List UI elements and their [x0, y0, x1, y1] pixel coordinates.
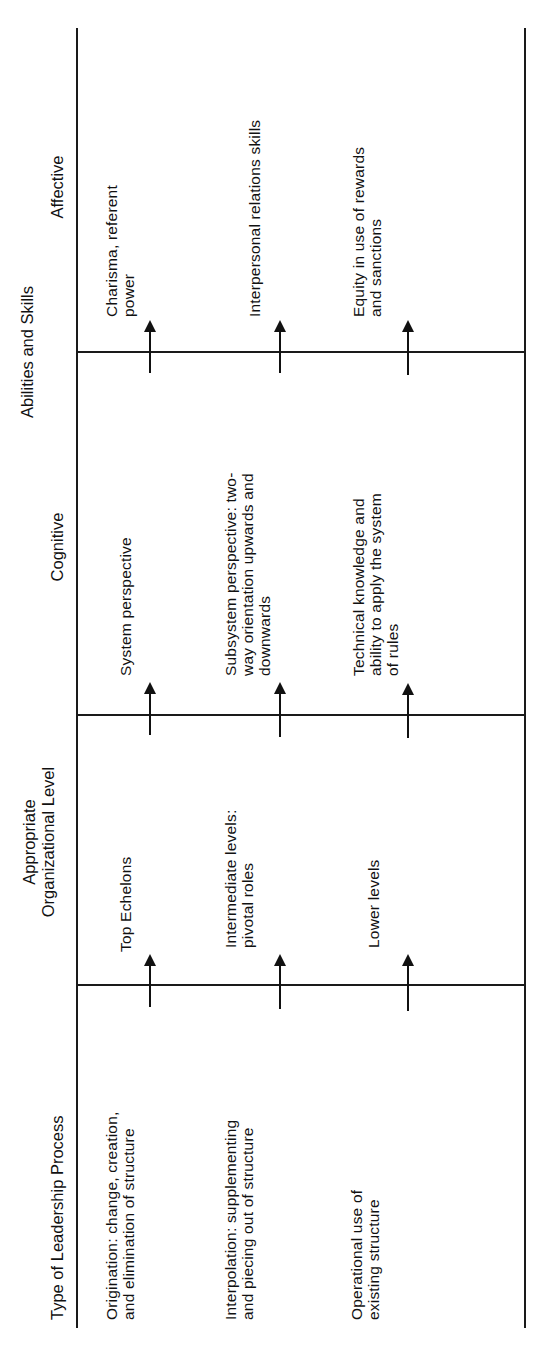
arrow-icon: [279, 685, 281, 737]
row2-affective: Interpersonal relations skills: [246, 120, 263, 317]
row2-level: Intermediate levels: pivotal roles: [222, 810, 256, 948]
bottom-rule: [524, 28, 526, 1328]
column-divider-1: [77, 984, 526, 986]
arrow-icon: [149, 957, 151, 1007]
column-divider-2: [77, 714, 526, 716]
header-leadership-process: Type of Leadership Process: [48, 1020, 67, 1328]
row3-affective: Equity in use of rewards and sanctions: [350, 147, 384, 317]
arrow-icon: [407, 957, 409, 1011]
rotated-table: Type of Leadership Process Appropriate O…: [0, 0, 552, 1372]
column-divider-3: [77, 351, 526, 353]
arrow-icon: [149, 685, 151, 735]
row3-process: Operational use of existing structure: [348, 1190, 382, 1320]
row2-process: Interpolation: supplementing and piecing…: [222, 1120, 256, 1320]
header-rule: [76, 28, 78, 1328]
header-abilities-and-skills: Abilities and Skills: [18, 212, 37, 492]
row3-level: Lower levels: [365, 859, 382, 948]
arrow-icon: [407, 686, 409, 738]
row1-affective: Charisma, referent power: [103, 185, 137, 317]
row1-process: Origination: change, creation, and elimi…: [103, 1112, 137, 1320]
row2-cognitive: Subsystem perspective: two- way orientat…: [222, 472, 273, 676]
row1-level: Top Echelons: [117, 857, 134, 952]
row3-cognitive: Technical knowledge and ability to apply…: [350, 493, 401, 676]
header-organizational-level: Appropriate Organizational Level: [20, 707, 58, 977]
header-affective: Affective: [48, 22, 67, 352]
row1-cognitive: System perspective: [117, 537, 134, 676]
arrow-icon: [407, 323, 409, 375]
arrow-icon: [279, 323, 281, 373]
arrow-icon: [279, 957, 281, 1009]
header-cognitive: Cognitive: [48, 382, 67, 712]
arrow-icon: [149, 323, 151, 373]
